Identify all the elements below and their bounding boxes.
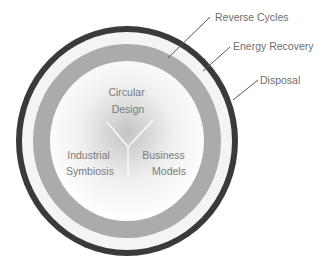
- leader-energy-recovery: [203, 47, 230, 71]
- leader-disposal: [233, 80, 258, 100]
- callout-energy-recovery: Energy Recovery: [233, 40, 314, 52]
- circular-economy-diagram: Circular Design Industrial Symbiosis Bus…: [0, 0, 326, 270]
- callout-reverse-cycles: Reverse Cycles: [215, 11, 289, 23]
- callout-disposal: Disposal: [260, 74, 300, 86]
- core-circle: [50, 61, 204, 221]
